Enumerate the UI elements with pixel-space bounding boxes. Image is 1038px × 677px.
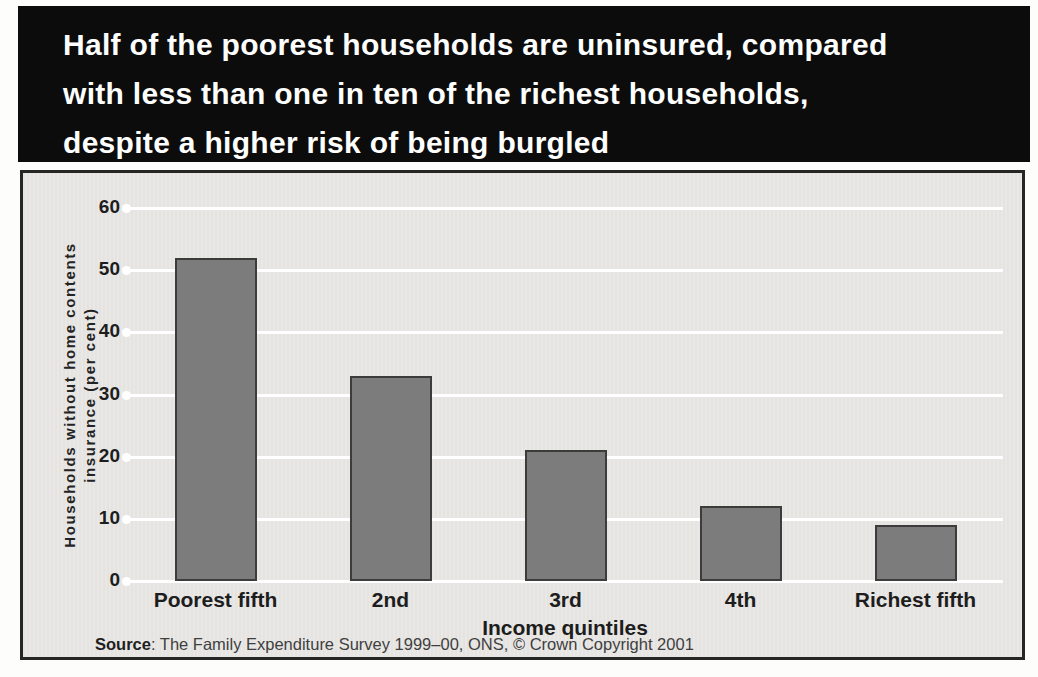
chart-title-line-3: despite a higher risk of being burgled (63, 118, 1000, 167)
gridline-dot-40 (122, 328, 131, 337)
y-tick-label-0: 0 (58, 569, 120, 591)
y-axis-title: Households without home contents insuran… (60, 242, 100, 547)
chart-title-band: Half of the poorest households are unins… (18, 6, 1030, 162)
source-label: Source (95, 635, 151, 653)
source-note: Source: The Family Expenditure Survey 19… (95, 635, 694, 654)
bar-4th (700, 506, 782, 581)
chart-panel: 0102030405060 Poorest fifth2nd3rd4thRich… (20, 170, 1025, 660)
gridline-60 (128, 207, 1003, 210)
y-axis-title-line-1: Households without home contents (60, 242, 80, 547)
y-axis-title-line-2: insurance (per cent) (80, 242, 100, 547)
bar-2nd (350, 376, 432, 581)
gridline-40 (128, 331, 1003, 334)
y-tick-label-60: 60 (58, 196, 120, 218)
bar-poorest-fifth (175, 258, 257, 581)
x-tick-label-4th: 4th (725, 588, 757, 612)
bar-3rd (525, 450, 607, 581)
chart-title-line-2: with less than one in ten of the richest… (63, 69, 1000, 118)
bar-richest-fifth (875, 525, 957, 581)
gridline-dot-0 (122, 577, 131, 586)
gridline-dot-20 (122, 453, 131, 462)
x-tick-label-richest-fifth: Richest fifth (855, 588, 976, 612)
gridline-dot-30 (122, 391, 131, 400)
source-text: : The Family Expenditure Survey 1999–00,… (151, 635, 694, 653)
gridline-dot-10 (122, 515, 131, 524)
x-tick-label-3rd: 3rd (549, 588, 582, 612)
x-tick-label-2nd: 2nd (372, 588, 409, 612)
gridline-dot-50 (122, 266, 131, 275)
figure: Half of the poorest households are unins… (0, 0, 1038, 677)
x-tick-label-poorest-fifth: Poorest fifth (154, 588, 278, 612)
chart-title-line-1: Half of the poorest households are unins… (63, 20, 1000, 69)
gridline-dot-60 (122, 204, 131, 213)
gridline-30 (128, 394, 1003, 397)
gridline-50 (128, 269, 1003, 272)
